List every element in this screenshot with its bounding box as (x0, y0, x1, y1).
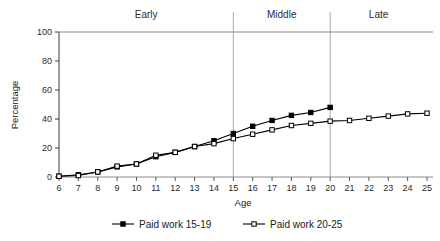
legend-marker (252, 222, 256, 226)
x-tick-label: 10 (131, 183, 141, 193)
data-point (289, 113, 293, 117)
x-tick-label: 9 (115, 183, 120, 193)
data-point (347, 118, 351, 122)
x-tick-label: 6 (56, 183, 61, 193)
x-tick-label: 19 (306, 183, 316, 193)
data-point (96, 170, 100, 174)
chart-background (0, 0, 440, 241)
y-axis-title: Percentage (9, 81, 20, 130)
data-point (328, 119, 332, 123)
data-point (192, 144, 196, 148)
x-tick-label: 24 (403, 183, 413, 193)
legend-marker (121, 222, 125, 226)
data-point (270, 118, 274, 122)
x-tick-label: 18 (286, 183, 296, 193)
data-point (154, 153, 158, 157)
data-point (425, 111, 429, 115)
data-point (386, 114, 390, 118)
line-chart: EarlyMiddleLate 020406080100 67891011121… (0, 0, 440, 241)
data-point (270, 128, 274, 132)
x-tick-label: 16 (248, 183, 258, 193)
x-tick-label: 22 (364, 183, 374, 193)
data-point (173, 150, 177, 154)
data-point (367, 116, 371, 120)
data-point (328, 105, 332, 109)
data-point (76, 173, 80, 177)
legend-label: Paid work 20-25 (270, 219, 343, 230)
period-label-late: Late (369, 9, 389, 20)
data-point (231, 136, 235, 140)
period-label-early: Early (135, 9, 158, 20)
y-tick-label: 20 (42, 143, 52, 153)
x-tick-label: 12 (170, 183, 180, 193)
x-tick-label: 25 (422, 183, 432, 193)
x-tick-label: 8 (95, 183, 100, 193)
data-point (134, 162, 138, 166)
x-tick-label: 14 (209, 183, 219, 193)
data-point (57, 174, 61, 178)
x-tick-label: 13 (190, 183, 200, 193)
data-point (212, 141, 216, 145)
data-point (250, 132, 254, 136)
x-tick-label: 11 (151, 183, 160, 193)
y-tick-label: 40 (42, 114, 52, 124)
data-point (405, 112, 409, 116)
x-tick-label: 7 (76, 183, 81, 193)
y-tick-label: 60 (42, 85, 52, 95)
x-tick-label: 21 (345, 183, 355, 193)
x-tick-label: 23 (383, 183, 393, 193)
legend-label: Paid work 15-19 (139, 219, 212, 230)
x-tick-label: 15 (228, 183, 238, 193)
x-tick-label: 17 (267, 183, 277, 193)
data-point (115, 164, 119, 168)
data-point (231, 131, 235, 135)
x-axis-title: Age (235, 197, 252, 208)
y-tick-label: 0 (47, 172, 52, 182)
data-point (250, 124, 254, 128)
data-point (309, 110, 313, 114)
y-tick-label: 100 (37, 27, 52, 37)
data-point (289, 123, 293, 127)
y-tick-label: 80 (42, 56, 52, 66)
period-label-middle: Middle (267, 9, 297, 20)
x-tick-label: 20 (325, 183, 335, 193)
data-point (309, 121, 313, 125)
